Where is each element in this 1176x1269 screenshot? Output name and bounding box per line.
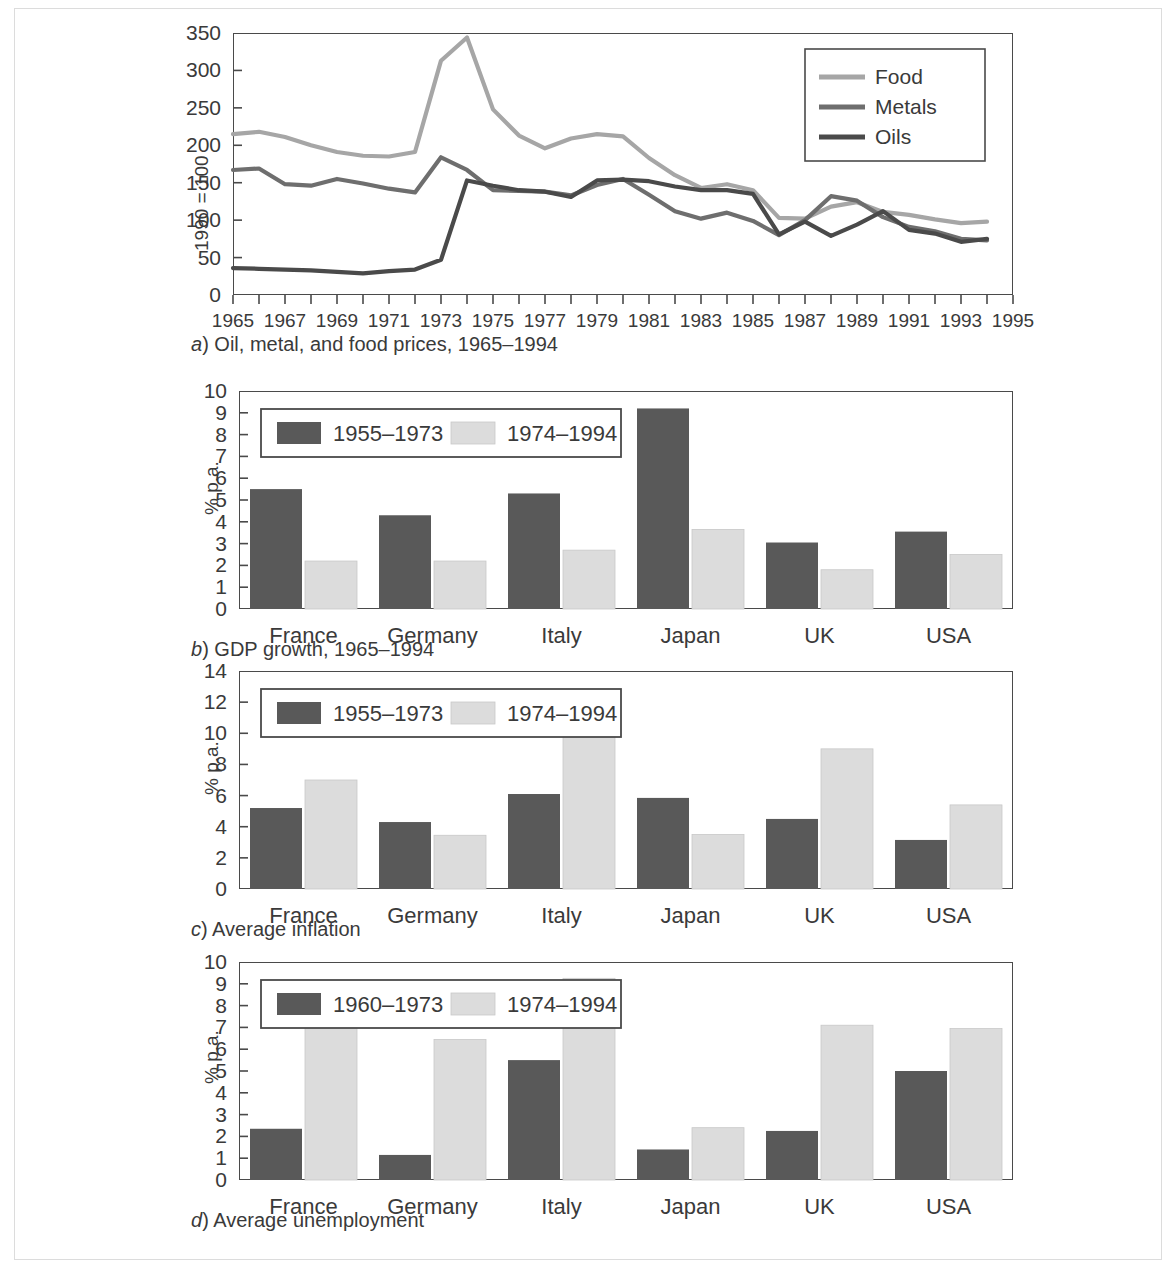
panel-a-price-line-chart: 1990 = 100 05010015020025030035019651967… [15,9,1163,359]
panel-a-x-tick-label: 1967 [264,310,306,331]
panel-a-x-tick-label: 1965 [212,310,254,331]
panel-c-plot-area [239,671,1013,889]
panel-a-y-tick-label: 350 [186,21,221,44]
panel-d-plot-area [239,962,1013,1180]
panel-b-y-tick-label: 0 [215,597,227,620]
panel-a-y-axis-title: 1990 = 100 [191,155,213,251]
panel-b-category-label: UK [804,623,835,648]
panel-a-caption-letter: a [191,333,202,355]
panel-d-category-label: USA [926,1194,972,1219]
panel-d-y-tick-label: 4 [215,1081,227,1104]
panel-d-category-label: UK [804,1194,835,1219]
panel-b-plot-area [239,391,1013,609]
panel-c-y-tick-label: 0 [215,877,227,900]
panel-a-caption: a) Oil, metal, and food prices, 1965–199… [191,333,558,356]
panel-b-y-tick-label: 8 [215,423,227,446]
panel-c-category-label: USA [926,903,972,928]
panel-b-y-tick-label: 3 [215,532,227,555]
panel-c-category-label: Italy [541,903,581,928]
panel-d-y-tick-label: 8 [215,994,227,1017]
panel-b-category-label: Japan [661,623,721,648]
panel-b-y-tick-label: 10 [204,379,227,402]
panel-a-y-tick-label: 250 [186,96,221,119]
panel-a-x-tick-label: 1977 [524,310,566,331]
panel-a-y-tick-label: 0 [209,283,221,306]
panel-a-y-tick-label: 200 [186,133,221,156]
panel-d-category-label: Japan [661,1194,721,1219]
panel-c-y-tick-label: 12 [204,690,227,713]
panel-b-y-axis-title: % p.a. [201,461,223,515]
panel-b-category-label: Italy [541,623,581,648]
panel-d-unemployment-chart: % p.a. 012345678910FranceGermanyItalyJap… [15,944,1163,1244]
panel-a-y-tick-label: 300 [186,58,221,81]
panel-d-y-axis-title: % p.a. [201,1030,223,1084]
panel-d-category-label: Italy [541,1194,581,1219]
panel-b-caption-letter: b [191,638,202,660]
panel-a-x-tick-label: 1985 [732,310,774,331]
panel-d-y-tick-label: 0 [215,1168,227,1191]
panel-a-x-tick-label: 1983 [680,310,722,331]
panel-b-caption-text: ) GDP growth, 1965–1994 [202,638,434,660]
panel-c-y-tick-label: 14 [204,659,228,682]
panel-b-caption: b) GDP growth, 1965–1994 [191,638,434,661]
panel-a-x-tick-label: 1991 [888,310,930,331]
panel-c-category-label: Japan [661,903,721,928]
panel-c-category-label: Germany [387,903,477,928]
panel-a-x-tick-label: 1981 [628,310,670,331]
panel-d-y-tick-label: 9 [215,972,227,995]
panel-a-caption-text: ) Oil, metal, and food prices, 1965–1994 [202,333,558,355]
panel-d-y-tick-label: 1 [215,1146,227,1169]
panel-c-category-label: UK [804,903,835,928]
panel-d-caption-letter: d [191,1209,202,1231]
panel-d-y-tick-label: 2 [215,1124,227,1147]
panel-b-y-tick-label: 2 [215,553,227,576]
panel-a-x-tick-label: 1979 [576,310,618,331]
panel-a-x-tick-label: 1975 [472,310,514,331]
panel-c-caption-letter: c [191,918,201,940]
panel-a-x-tick-label: 1969 [316,310,358,331]
panel-d-y-tick-label: 10 [204,950,227,973]
panel-c-caption-text: ) Average inflation [201,918,361,940]
panel-a-plot-area [233,33,1013,295]
panel-c-y-tick-label: 4 [215,815,227,838]
panel-d-y-tick-label: 3 [215,1103,227,1126]
panel-c-y-axis-title: % p.a. [201,741,223,795]
panel-c-inflation-chart: % p.a. 02468101214FranceGermanyItalyJapa… [15,659,1163,944]
panel-b-y-tick-label: 1 [215,575,227,598]
panel-a-x-tick-label: 1987 [784,310,826,331]
panel-a-x-tick-label: 1973 [420,310,462,331]
panel-c-y-tick-label: 2 [215,846,227,869]
panel-a-x-tick-label: 1971 [368,310,410,331]
panel-b-gdp-growth-chart: % p.a. 012345678910FranceGermanyItalyJap… [15,379,1163,664]
panel-d-caption-text: ) Average unemployment [202,1209,424,1231]
panel-b-y-tick-label: 9 [215,401,227,424]
panel-a-x-tick-label: 1989 [836,310,878,331]
panel-a-x-tick-label: 1993 [940,310,982,331]
panel-d-caption: d) Average unemployment [191,1209,424,1232]
panel-a-x-tick-label: 1995 [992,310,1034,331]
panel-c-caption: c) Average inflation [191,918,361,941]
panel-b-category-label: USA [926,623,972,648]
figure-frame: 1990 = 100 05010015020025030035019651967… [14,8,1162,1260]
